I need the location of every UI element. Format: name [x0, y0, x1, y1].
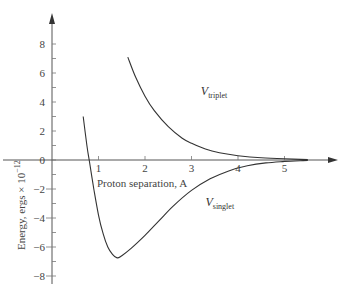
x-tick-label: 2 [142, 162, 148, 174]
energy-vs-proton-separation-chart: 86420−2−4−6−812345 Proton separation, AE… [0, 0, 357, 296]
y-tick-label: −6 [33, 241, 45, 253]
y-tick-label: 2 [40, 125, 46, 137]
curve-v-triplet [128, 57, 308, 160]
y-tick-label: 0 [40, 154, 46, 166]
x-tick-label: 5 [282, 162, 288, 174]
labels: Proton separation, AEnergy, ergs × 10−12… [13, 84, 235, 250]
x-tick-label: 1 [96, 162, 102, 174]
label-v-singlet: Vsinglet [205, 195, 234, 211]
y-tick-label: 8 [40, 38, 46, 50]
label-v-triplet: Vtriplet [201, 84, 228, 100]
y-axis-arrow-icon [49, 13, 55, 24]
x-axis-title: Proton separation, A [97, 177, 187, 189]
x-axis-arrow-icon [328, 157, 338, 163]
curves [83, 57, 308, 258]
y-axis-title: Energy, ergs × 10−12 [13, 160, 27, 250]
x-tick-label: 3 [189, 162, 195, 174]
axes: 86420−2−4−6−812345 [3, 13, 338, 284]
y-tick-label: 4 [40, 96, 46, 108]
y-tick-label: −8 [33, 270, 45, 282]
y-tick-label: −4 [33, 212, 45, 224]
y-tick-label: −2 [33, 183, 45, 195]
y-tick-label: 6 [40, 67, 46, 79]
